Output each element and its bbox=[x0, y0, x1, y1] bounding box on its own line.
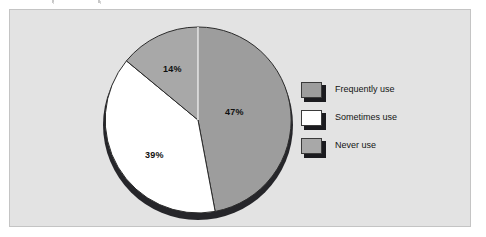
legend-item-sometimes-use[interactable]: Sometimes use bbox=[295, 108, 425, 136]
legend-swatch-never-use bbox=[301, 138, 327, 159]
legend-label-never-use: Never use bbox=[335, 140, 376, 150]
chart-legend: Frequently use Sometimes use Never use bbox=[295, 80, 425, 164]
legend-swatch-fill bbox=[301, 138, 322, 154]
clipped-glyph-mark bbox=[53, 2, 54, 4]
legend-swatch-fill bbox=[301, 110, 322, 126]
legend-swatch-sometimes-use bbox=[301, 110, 327, 131]
pie-slice-label-frequently-use: 47% bbox=[225, 107, 244, 117]
chart-frame: 14% 47% 39% Frequently use Sometimes use… bbox=[9, 9, 471, 227]
legend-swatch-fill bbox=[301, 82, 322, 98]
legend-label-frequently-use: Frequently use bbox=[335, 84, 395, 94]
pie-chart: 14% 47% 39% bbox=[101, 22, 299, 220]
pie-slices-svg bbox=[103, 25, 293, 215]
clipped-glyph-mark bbox=[100, 1, 101, 4]
legend-item-never-use[interactable]: Never use bbox=[295, 136, 425, 164]
legend-swatch-frequently-use bbox=[301, 82, 327, 103]
pie-slice-label-never-use: 14% bbox=[163, 64, 182, 74]
legend-item-frequently-use[interactable]: Frequently use bbox=[295, 80, 425, 108]
clipped-text-above-figure bbox=[0, 0, 486, 9]
legend-label-sometimes-use: Sometimes use bbox=[335, 112, 397, 122]
pie-slice-frequently-use[interactable] bbox=[198, 27, 291, 211]
pie-slice-label-sometimes-use: 39% bbox=[145, 150, 164, 160]
